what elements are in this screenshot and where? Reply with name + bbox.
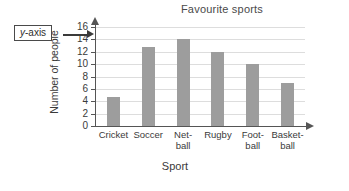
bars-layer bbox=[96, 27, 305, 126]
bar-cricket bbox=[107, 97, 120, 126]
y-tick-label: 2 bbox=[62, 108, 88, 119]
bar-football bbox=[246, 64, 259, 126]
y-tick-label: 4 bbox=[62, 95, 88, 106]
callout-arrow-head bbox=[87, 30, 94, 38]
bar-rugby bbox=[211, 52, 224, 126]
y-axis-tick bbox=[91, 64, 96, 65]
bar-soccer bbox=[142, 47, 155, 126]
y-tick-label: 8 bbox=[62, 71, 88, 82]
x-axis-labels: CricketSoccerNet-ballRugbyFoot-ballBaske… bbox=[96, 129, 308, 161]
x-tick-label-line: ball bbox=[265, 140, 311, 151]
y-axis-tick bbox=[91, 101, 96, 102]
y-tick-label: 12 bbox=[62, 46, 88, 57]
y-axis-arrowhead bbox=[91, 17, 99, 25]
y-axis-tick bbox=[91, 27, 96, 28]
y-tick-label: 10 bbox=[62, 58, 88, 69]
x-axis-title: Sport bbox=[130, 160, 220, 172]
y-tick-label: 6 bbox=[62, 83, 88, 94]
x-tick-label-line: ball bbox=[160, 140, 206, 151]
x-axis-line bbox=[95, 126, 307, 127]
y-tick-label: 0 bbox=[62, 120, 88, 131]
y-axis-callout-box: y-axis bbox=[14, 25, 52, 41]
chart-title: Favourite sports bbox=[152, 3, 292, 15]
y-axis-tick bbox=[91, 39, 96, 40]
chart-figure: Favourite sports Number of people Cricke… bbox=[0, 0, 349, 191]
y-axis-tick bbox=[91, 89, 96, 90]
y-axis-tick bbox=[91, 114, 96, 115]
y-axis-tick bbox=[91, 77, 96, 78]
bar-netball bbox=[177, 39, 190, 126]
y-tick-label: 14 bbox=[62, 33, 88, 44]
x-tick-label-basketball: Basket-ball bbox=[265, 129, 311, 151]
y-axis-tick bbox=[91, 126, 96, 127]
y-tick-label: 16 bbox=[62, 21, 88, 32]
bar-basketball bbox=[281, 83, 294, 126]
y-axis-tick bbox=[91, 52, 96, 53]
x-tick-label-line: Basket- bbox=[265, 129, 311, 140]
callout-label-rest: -axis bbox=[25, 27, 46, 38]
